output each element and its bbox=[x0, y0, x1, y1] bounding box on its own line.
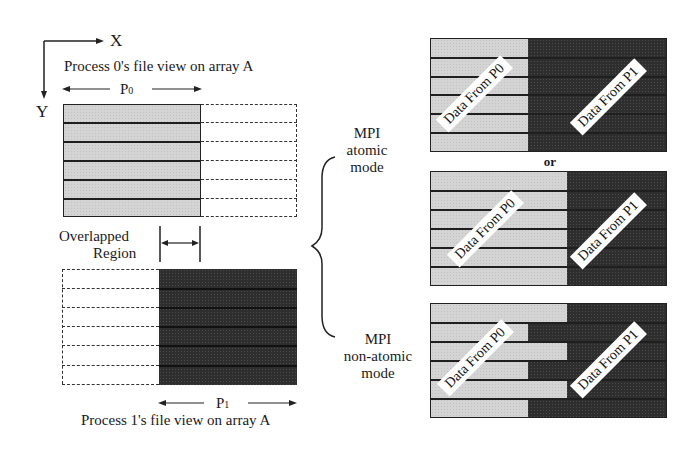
nonatomic-mode-label: MPI non-atomic mode bbox=[328, 331, 428, 382]
atomic-result-panel-2 bbox=[430, 171, 667, 286]
atomic-mode-label: MPI atomic mode bbox=[332, 125, 402, 176]
or-label: or bbox=[520, 154, 580, 170]
